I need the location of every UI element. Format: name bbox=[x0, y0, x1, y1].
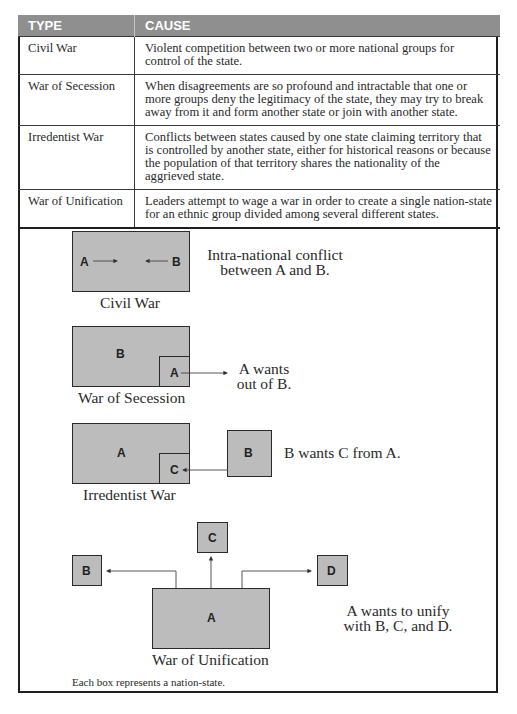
diagram-panel: A B Civil War Intra-national conflict be… bbox=[0, 0, 517, 714]
arrow-lines bbox=[0, 0, 517, 714]
arrow-icon bbox=[107, 571, 176, 588]
arrow-icon bbox=[242, 571, 311, 588]
